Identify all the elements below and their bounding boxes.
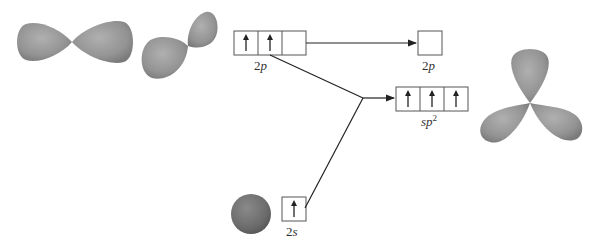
label-2p-right: 2p bbox=[422, 58, 435, 74]
p-orbital-horizontal-icon bbox=[17, 21, 133, 63]
diagram-canvas bbox=[0, 0, 596, 249]
label-sym: p bbox=[261, 58, 268, 73]
label-sp2: sp2 bbox=[421, 113, 437, 130]
label-sym: sp bbox=[421, 114, 433, 129]
s-orbital-sphere-icon bbox=[231, 194, 271, 234]
line-2p-to-junction bbox=[270, 55, 363, 98]
label-sup: 2 bbox=[433, 113, 438, 123]
label-2s: 2s bbox=[286, 224, 298, 240]
label-2p-left: 2p bbox=[254, 58, 267, 74]
orbital-box-2s bbox=[282, 197, 306, 221]
line-2s-to-junction bbox=[305, 98, 363, 208]
label-sym: s bbox=[293, 224, 298, 239]
orbital-box-2p-left bbox=[234, 31, 306, 55]
sp2-trigonal-orbitals-icon bbox=[480, 49, 582, 143]
label-sym: p bbox=[429, 58, 436, 73]
orbital-box-2p-right bbox=[418, 31, 442, 55]
hybridization-diagram: 2p 2p sp2 2s bbox=[0, 0, 596, 249]
orbital-box-sp2 bbox=[396, 87, 468, 111]
p-orbital-tilted-icon bbox=[142, 12, 218, 79]
